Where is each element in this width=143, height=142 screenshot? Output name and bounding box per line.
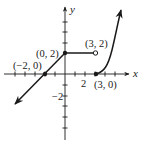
function-graph: y x 2 −2 (−2, 0) (0, 2) (3, 2) (3, 0) [0, 0, 143, 142]
x-tick-label-2: 2 [81, 78, 86, 89]
point-3-0 [94, 72, 98, 76]
x-axis [4, 72, 129, 77]
point-0-2 [63, 51, 67, 55]
y-axis-label: y [69, 3, 75, 15]
x-axis-label: x [132, 67, 138, 79]
label-0-2: (0, 2) [36, 48, 59, 60]
y-tick-label-neg2: −2 [52, 91, 63, 102]
y-axis [63, 7, 68, 140]
open-point-3-2 [93, 51, 97, 55]
label-3-0: (3, 0) [94, 79, 117, 91]
point-neg2-0 [43, 72, 47, 76]
label-3-2: (3, 2) [85, 38, 108, 50]
label-neg2-0: (−2, 0) [13, 60, 42, 72]
